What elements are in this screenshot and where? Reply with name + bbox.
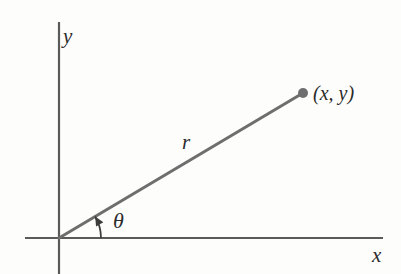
x-axis-label: x [372, 245, 381, 266]
polar-coordinate-figure: y x r θ (x, y) [0, 0, 401, 274]
y-axis-label: y [63, 26, 72, 47]
radius-ray-line [59, 93, 303, 238]
point-coordinates-label: (x, y) [313, 83, 354, 103]
theta-angle-label: θ [113, 210, 124, 232]
point-marker-dot [298, 88, 308, 98]
radius-label: r [182, 132, 190, 153]
figure-canvas [0, 0, 401, 274]
